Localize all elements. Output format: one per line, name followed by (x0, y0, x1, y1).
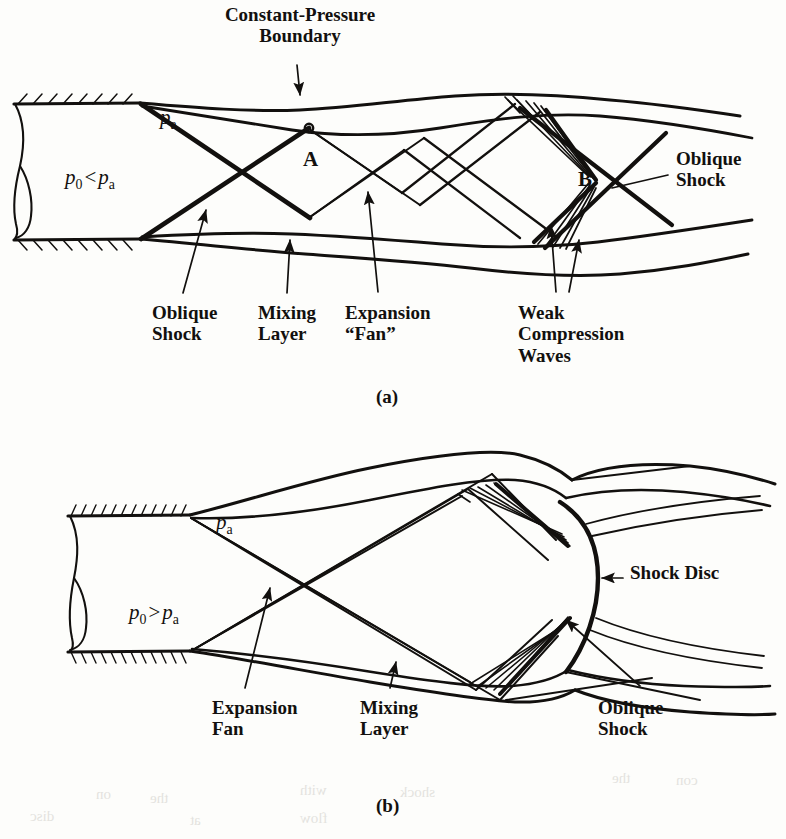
nozzle-throat-b (70, 516, 87, 652)
point-label-b: B (578, 168, 592, 192)
panel-b-exit-pressure: pa (195, 487, 233, 561)
leader-constant-pressure (297, 65, 300, 95)
p0-symbol: p (65, 165, 76, 189)
label-expansion-fan-a: Expansion “Fan” (345, 302, 431, 345)
bleed-text: at (190, 812, 201, 829)
coalesced-shock-lower-a (534, 183, 596, 242)
bleed-text: on (96, 786, 111, 803)
p-subscript-b: a (227, 522, 233, 537)
bleed-text: the (150, 790, 168, 807)
pa-subscript: a (109, 177, 115, 192)
label-oblique-shock-right-a: Oblique Shock (676, 148, 741, 191)
leader-mixing-layer (287, 240, 290, 293)
panel-a-pressure-condition: p0<pa (44, 142, 115, 216)
leader-weak-compression-2 (569, 240, 579, 292)
panel-b-pressure-condition: p0>pa (108, 577, 179, 651)
plume-boundary-b (190, 452, 575, 702)
expansion-fan-b (191, 474, 500, 700)
label-mixing-layer-a: Mixing Layer (258, 302, 316, 345)
bleed-text: flow (300, 810, 328, 827)
panel-a-caption: (a) (376, 386, 398, 407)
leader-oblique-shock-left (183, 210, 206, 293)
bleed-text: with (300, 782, 327, 799)
relation-operator: < (82, 165, 98, 189)
figure-canvas: Constant-Pressure Boundary pa p0<pa A B … (0, 0, 786, 839)
label-expansion-fan-b: Expansion Fan (212, 697, 298, 740)
panel-b-caption: (b) (376, 795, 399, 816)
label-weak-compression-waves-a: Weak Compression Waves (518, 302, 624, 366)
shock-disc-b (560, 502, 598, 672)
label-shock-disc-b: Shock Disc (630, 562, 719, 583)
nozzle-throat-a (14, 104, 32, 240)
p-subscript: a (171, 117, 177, 132)
p-symbol: p (160, 105, 171, 129)
panel-a-title: Constant-Pressure Boundary (185, 4, 415, 47)
bleed-text: shock (400, 784, 435, 801)
bleed-text: con (676, 772, 698, 789)
compression-fan-lower-b (470, 617, 568, 692)
bleed-text: disc (30, 808, 54, 825)
label-oblique-shock-left-a: Oblique Shock (152, 302, 217, 345)
p0-symbol-b: p (129, 600, 140, 624)
pa-symbol: p (98, 165, 109, 189)
pa-symbol-b: p (162, 600, 173, 624)
panel-a-exit-pressure: pa (139, 82, 177, 156)
relation-operator-b: > (146, 600, 162, 624)
label-oblique-shock-b: Oblique Shock (598, 697, 663, 740)
p-symbol-b: p (216, 510, 227, 534)
bleed-text: the (612, 770, 630, 787)
label-mixing-layer-b: Mixing Layer (360, 697, 418, 740)
leader-expansion-fan-b (245, 588, 270, 688)
expansion-fan-a (309, 129, 424, 217)
point-label-a: A (303, 148, 318, 172)
pa-subscript-b: a (173, 612, 179, 627)
leader-expansion-fan (368, 192, 378, 292)
